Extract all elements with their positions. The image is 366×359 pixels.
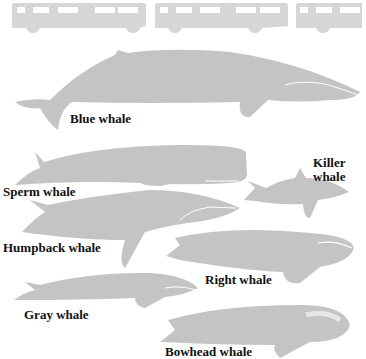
blue-whale-silhouette — [15, 50, 360, 130]
label-killer-whale-line2: whale — [313, 170, 346, 184]
sperm-whale-silhouette — [15, 145, 247, 186]
label-bowhead-whale: Bowhead whale — [165, 345, 252, 359]
label-gray-whale: Gray whale — [24, 308, 89, 322]
silhouettes — [0, 0, 366, 359]
label-right-whale: Right whale — [205, 273, 272, 287]
gray-whale-silhouette — [14, 273, 198, 308]
label-blue-whale: Blue whale — [70, 112, 131, 126]
whale-size-diagram: Blue whale Sperm whale Killer whale Hump… — [0, 0, 366, 359]
label-sperm-whale: Sperm whale — [3, 185, 76, 199]
label-killer-whale-line1: Killer — [313, 156, 346, 170]
label-humpback-whale: Humpback whale — [3, 241, 101, 255]
